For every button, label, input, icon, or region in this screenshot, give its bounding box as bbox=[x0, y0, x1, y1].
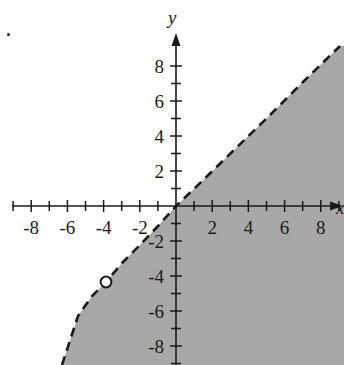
graph-figure: y x -8-6-4-224688642-2-4-6-8 bbox=[0, 0, 344, 365]
x-tick-label--6: -6 bbox=[52, 218, 82, 237]
y-tick-label-6: 6 bbox=[134, 92, 164, 111]
y-tick-label-8: 8 bbox=[134, 57, 164, 76]
open-circle-marker bbox=[101, 277, 112, 288]
y-axis-arrow bbox=[172, 33, 181, 46]
x-tick-label-8: 8 bbox=[306, 218, 336, 237]
x-tick-label-6: 6 bbox=[270, 218, 300, 237]
x-tick-label--4: -4 bbox=[89, 218, 119, 237]
x-axis-label: x bbox=[336, 198, 344, 217]
y-tick-label--4: -4 bbox=[134, 267, 164, 286]
y-tick-label-4: 4 bbox=[134, 127, 164, 146]
y-tick-label--2: -2 bbox=[134, 232, 164, 251]
x-tick-label-2: 2 bbox=[197, 218, 227, 237]
y-axis-label: y bbox=[168, 8, 176, 27]
y-tick-label-2: 2 bbox=[134, 162, 164, 181]
x-tick-label--8: -8 bbox=[16, 218, 46, 237]
y-tick-label--6: -6 bbox=[134, 302, 164, 321]
coordinate-plane-svg bbox=[0, 0, 344, 365]
y-tick-label--8: -8 bbox=[134, 337, 164, 356]
x-tick-label-4: 4 bbox=[233, 218, 263, 237]
